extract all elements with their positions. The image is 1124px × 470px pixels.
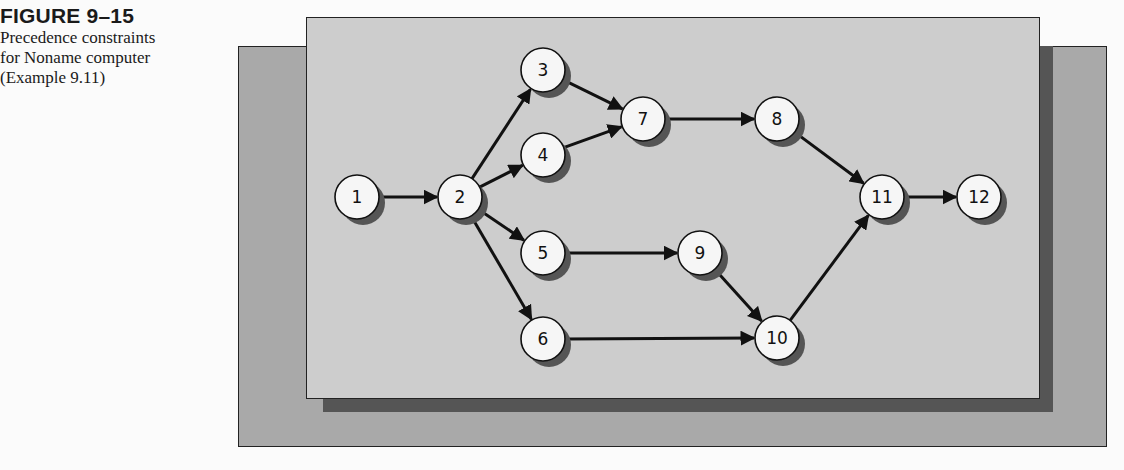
edge-8-to-11 bbox=[795, 132, 864, 183]
task-node-8: 8 bbox=[755, 97, 799, 141]
task-node-12: 12 bbox=[957, 175, 1001, 219]
edge-9-to-10 bbox=[715, 269, 762, 321]
task-node-6: 6 bbox=[521, 317, 565, 361]
edge-4-to-7 bbox=[564, 127, 622, 148]
node-label: 11 bbox=[871, 187, 893, 207]
node-label: 3 bbox=[538, 60, 549, 80]
task-node-10: 10 bbox=[755, 316, 799, 360]
node-label: 7 bbox=[638, 109, 649, 129]
task-node-1: 1 bbox=[335, 175, 379, 219]
node-label: 1 bbox=[352, 187, 363, 207]
task-node-2: 2 bbox=[438, 175, 482, 219]
edge-10-to-11 bbox=[790, 215, 868, 320]
node-label: 6 bbox=[538, 329, 549, 349]
edge-6-to-10 bbox=[565, 338, 754, 339]
precedence-graph: 123456789101112 bbox=[0, 0, 1124, 470]
task-node-5: 5 bbox=[521, 231, 565, 275]
node-label: 4 bbox=[538, 145, 549, 165]
edge-3-to-7 bbox=[563, 80, 623, 109]
node-label: 12 bbox=[968, 187, 990, 207]
task-node-7: 7 bbox=[621, 97, 665, 141]
task-node-9: 9 bbox=[678, 231, 722, 275]
node-label: 9 bbox=[695, 243, 706, 263]
task-node-11: 11 bbox=[860, 175, 904, 219]
edge-2-to-6 bbox=[471, 216, 531, 319]
node-shadows-group bbox=[341, 54, 1007, 367]
node-label: 8 bbox=[772, 109, 783, 129]
node-label: 10 bbox=[766, 328, 788, 348]
edge-2-to-4 bbox=[480, 165, 523, 187]
node-label: 5 bbox=[538, 243, 549, 263]
task-node-4: 4 bbox=[521, 133, 565, 177]
task-node-3: 3 bbox=[521, 48, 565, 92]
nodes-group: 123456789101112 bbox=[335, 48, 1001, 361]
node-label: 2 bbox=[455, 187, 466, 207]
